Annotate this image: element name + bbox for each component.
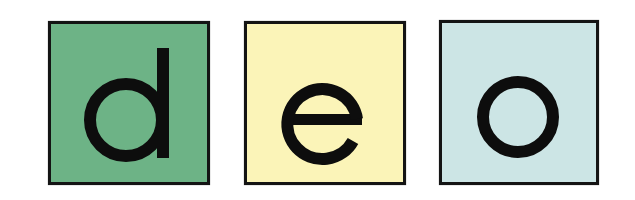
letter-e-icon	[247, 24, 403, 182]
tile-e: e	[244, 21, 406, 185]
tile-o: o	[439, 20, 599, 185]
letter-d-icon	[51, 24, 207, 182]
tile-d: d	[48, 21, 210, 185]
letter-o-icon	[442, 23, 596, 182]
